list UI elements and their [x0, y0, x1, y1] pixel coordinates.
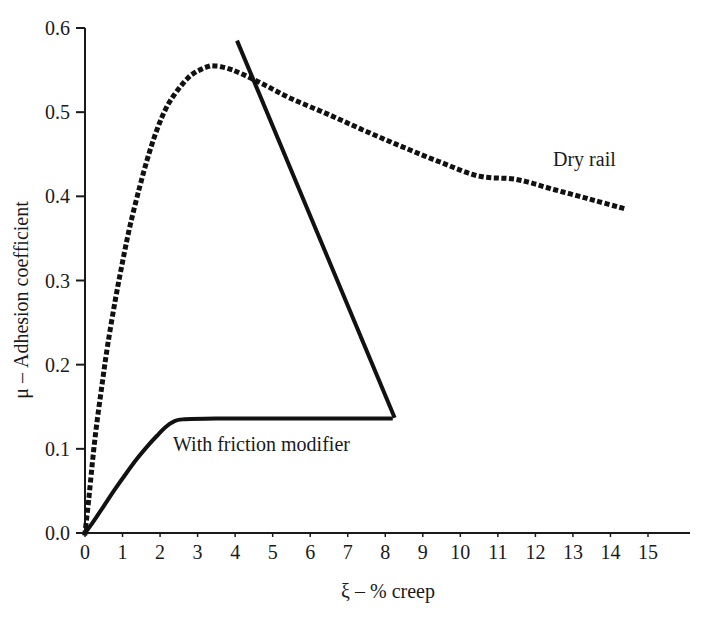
- y-tick-label: 0.6: [45, 17, 70, 39]
- y-tick-label: 0.2: [45, 354, 70, 376]
- x-tick-label: 9: [418, 541, 428, 563]
- y-tick-label: 0.4: [45, 185, 70, 207]
- chart-canvas: 0.00.10.20.30.40.50.6 012345678910111213…: [0, 0, 710, 617]
- x-tick-label: 8: [380, 541, 390, 563]
- x-tick-label: 7: [343, 541, 353, 563]
- x-tick-label: 6: [305, 541, 315, 563]
- dry-rail-series-label: Dry rail: [553, 148, 616, 171]
- x-tick-label: 1: [118, 541, 128, 563]
- x-tick-label: 3: [193, 541, 203, 563]
- x-tick-label: 12: [525, 541, 545, 563]
- adhesion-creep-chart: 0.00.10.20.30.40.50.6 012345678910111213…: [0, 0, 710, 617]
- axis-lines: [85, 28, 690, 533]
- y-tick-label: 0.1: [45, 438, 70, 460]
- x-tick-label: 14: [600, 541, 620, 563]
- x-axis-title: ξ – % creep: [341, 580, 435, 603]
- x-tick-label: 15: [638, 541, 658, 563]
- x-tick-label: 4: [230, 541, 240, 563]
- y-axis-tick-labels: 0.00.10.20.30.40.50.6: [45, 17, 70, 544]
- x-tick-label: 11: [488, 541, 507, 563]
- y-axis-ticks: [76, 28, 85, 533]
- x-axis-tick-labels: 0123456789101112131415: [80, 541, 658, 563]
- series-layer: [85, 41, 625, 533]
- x-tick-label: 2: [155, 541, 165, 563]
- y-tick-label: 0.5: [45, 101, 70, 123]
- y-tick-label: 0.3: [45, 270, 70, 292]
- x-tick-label: 0: [80, 541, 90, 563]
- y-tick-label: 0.0: [45, 522, 70, 544]
- y-axis-title: μ – Adhesion coefficient: [10, 201, 33, 399]
- friction-modifier-series-label: With friction modifier: [173, 433, 350, 455]
- series-path: [237, 41, 395, 418]
- x-tick-label: 10: [450, 541, 470, 563]
- series-path: [85, 66, 625, 533]
- x-tick-label: 5: [268, 541, 278, 563]
- x-tick-label: 13: [563, 541, 583, 563]
